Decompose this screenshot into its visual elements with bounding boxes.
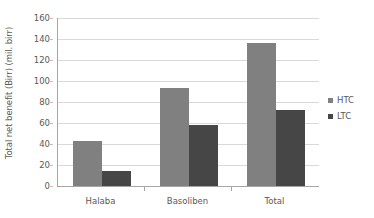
y-tick-label: 20 <box>39 161 50 170</box>
bar-series-container <box>58 18 319 186</box>
legend-swatch-icon <box>328 98 333 103</box>
bar-group <box>73 18 131 186</box>
legend-item-ltc[interactable]: LTC <box>328 108 374 124</box>
y-tick-label: 60 <box>39 119 50 128</box>
y-tick-label: 40 <box>39 140 50 149</box>
x-tick-mark <box>144 187 145 191</box>
bar-group <box>247 18 305 186</box>
y-tick-mark <box>50 39 53 40</box>
bar-htc-halaba[interactable] <box>73 141 102 186</box>
y-tick-mark <box>50 102 53 103</box>
y-tick-mark <box>50 165 53 166</box>
y-axis-tick-labels: 020406080100120140160 <box>18 0 54 190</box>
chart-legend: HTCLTC <box>328 92 374 124</box>
legend-label: HTC <box>337 95 354 105</box>
bar-ltc-halaba[interactable] <box>102 171 131 186</box>
bar-ltc-basoliben[interactable] <box>189 125 218 186</box>
y-axis-title: Total net benefit (Birr) (mil. birr) <box>4 27 14 159</box>
x-tick-mark <box>231 187 232 191</box>
x-tick-label-halaba: Halaba <box>86 196 116 206</box>
y-tick-label: 120 <box>34 56 50 65</box>
y-tick-mark <box>50 18 53 19</box>
y-tick-mark <box>50 81 53 82</box>
legend-swatch-icon <box>328 114 333 119</box>
y-tick-mark <box>50 144 53 145</box>
y-tick-label: 80 <box>39 98 50 107</box>
y-tick-mark <box>50 186 53 187</box>
y-tick-mark <box>50 123 53 124</box>
bar-ltc-total[interactable] <box>276 110 305 186</box>
y-tick-mark <box>50 60 53 61</box>
y-tick-label: 140 <box>34 35 50 44</box>
legend-label: LTC <box>337 111 351 121</box>
bar-chart: Total net benefit (Birr) (mil. birr) 020… <box>0 0 374 218</box>
x-axis: HalabaBasolibenTotal <box>57 187 318 211</box>
legend-item-htc[interactable]: HTC <box>328 92 374 108</box>
x-tick-label-total: Total <box>265 196 285 206</box>
x-tick-label-basoliben: Basoliben <box>167 196 208 206</box>
y-tick-label: 160 <box>34 14 50 23</box>
bar-htc-basoliben[interactable] <box>160 88 189 186</box>
bar-htc-total[interactable] <box>247 43 276 186</box>
bar-group <box>160 18 218 186</box>
plot-area <box>57 18 319 187</box>
y-tick-label: 100 <box>34 77 50 86</box>
y-axis-title-container: Total net benefit (Birr) (mil. birr) <box>0 0 18 186</box>
